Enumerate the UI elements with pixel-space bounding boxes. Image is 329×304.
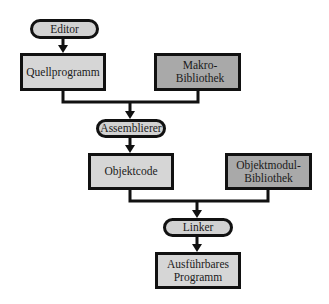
arrowhead-icon [125,111,135,119]
node-linker: Linker [163,218,233,237]
arrowhead-icon [192,210,202,218]
node-editor: Editor [30,19,99,39]
node-makro-bibliothek: Makro-Bibliothek [154,53,241,91]
node-objektmodul-bibliothek: Objektmodul- Bibliothek [225,153,312,190]
node-ausfuehrbares-programm: Ausführbares Programm [155,252,241,289]
edge-bus-sources [63,90,198,102]
arrowhead-icon [58,45,68,53]
node-quellprogramm: Quellprogramm [20,53,106,91]
edge-bus-objects [130,189,268,201]
node-assemblierer: Assemblierer [96,119,166,138]
arrowhead-icon [125,145,135,153]
arrowhead-icon [192,244,202,252]
assembler-flow-diagram: Editor Quellprogramm Makro-Bibliothek As… [0,0,329,304]
node-objektcode: Objektcode [88,153,174,190]
